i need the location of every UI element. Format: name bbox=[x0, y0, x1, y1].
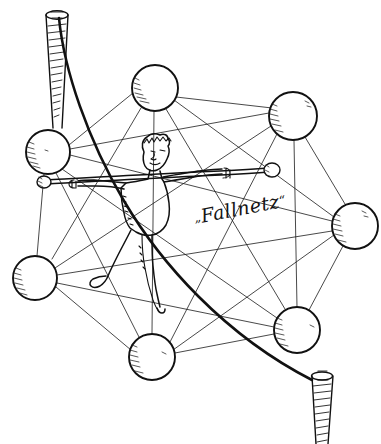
pole-weight-left bbox=[37, 176, 51, 188]
walker-left-leg bbox=[90, 230, 131, 288]
node-right bbox=[332, 203, 378, 249]
net-edge-lowerright-bottom bbox=[175, 334, 274, 353]
net-edge-upperright-right bbox=[305, 137, 345, 204]
walker-right-leg-inner bbox=[142, 234, 158, 310]
screw-bottom-right bbox=[312, 371, 334, 444]
walker-face bbox=[150, 150, 165, 165]
net-edge-top-upperright bbox=[176, 97, 272, 108]
walker-left-hand bbox=[69, 180, 76, 188]
walker-shading bbox=[123, 196, 145, 269]
illustration-canvas: „Fallnetz“ bbox=[0, 0, 381, 444]
net-edge-right-lowerright bbox=[309, 246, 343, 310]
node-left bbox=[26, 130, 70, 174]
walker-hair bbox=[144, 137, 171, 143]
net-edge-upperright-lowerright bbox=[294, 140, 297, 307]
net-edge-left-bottom bbox=[56, 173, 139, 337]
node-upper-right bbox=[269, 92, 317, 140]
net-edge-left-lowerright bbox=[62, 169, 277, 318]
node-lower-right bbox=[274, 307, 320, 353]
walker-right-hand bbox=[223, 168, 230, 178]
net-edge-upperright-bottom bbox=[170, 134, 277, 342]
net-edge-lowerleft-lowerright bbox=[57, 283, 274, 327]
node-top bbox=[132, 65, 178, 111]
net-edge-lowerleft-bottom bbox=[56, 287, 131, 350]
walker-foot bbox=[157, 308, 165, 313]
node-bottom bbox=[129, 334, 175, 380]
node-lower-left bbox=[13, 256, 57, 300]
net-edge-right-lowerleft bbox=[57, 231, 332, 275]
scene-drawing bbox=[0, 0, 381, 444]
balance-pole bbox=[37, 163, 280, 188]
screw-top-left bbox=[46, 11, 68, 128]
